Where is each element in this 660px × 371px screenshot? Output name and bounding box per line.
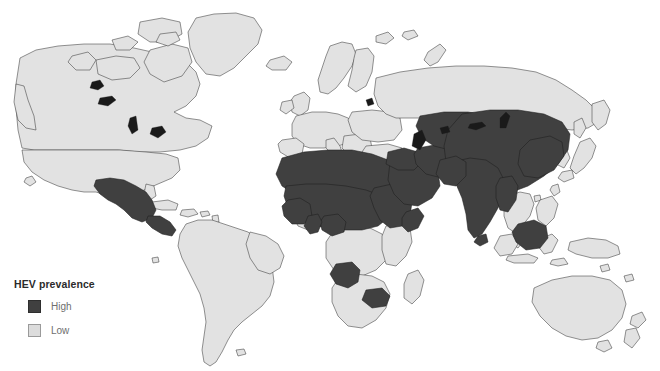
island-puerto-rico	[200, 211, 210, 217]
island-falklands	[236, 349, 246, 356]
island-svalbard	[376, 32, 394, 44]
country-new-zealand-north	[630, 312, 646, 328]
country-japan	[570, 138, 596, 174]
country-cuba	[152, 200, 178, 210]
island-timor	[550, 258, 568, 266]
island-madagascar	[404, 270, 424, 304]
country-iceland	[266, 56, 292, 70]
region-kamchatka	[592, 100, 610, 130]
country-australia	[532, 276, 626, 340]
map-legend: HEV prevalence High Low	[14, 278, 164, 345]
island-pacific-a	[600, 264, 610, 272]
legend-title: HEV prevalence	[14, 278, 164, 290]
legend-label-low: Low	[51, 324, 69, 337]
island-hispaniola	[180, 209, 198, 217]
island-java	[506, 254, 538, 263]
legend-item-high[interactable]: High	[28, 297, 164, 315]
country-new-zealand-south	[624, 328, 640, 348]
island-new-guinea	[568, 238, 620, 258]
legend-item-low[interactable]: Low	[28, 321, 164, 339]
island-arctic-russia	[402, 30, 418, 40]
legend-label-high: High	[51, 300, 72, 313]
country-greenland	[188, 13, 262, 76]
hev-prevalence-map-figure: HEV prevalence High Low	[0, 0, 660, 371]
legend-swatch-low-icon	[28, 324, 41, 337]
legend-swatch-high-icon	[28, 300, 41, 313]
marker-baltic	[366, 98, 374, 106]
region-central-america	[146, 216, 176, 236]
island-tasmania	[596, 340, 612, 352]
region-japan-south	[558, 170, 574, 182]
island-novaya-zemlya	[424, 44, 446, 66]
island-hawaii	[24, 176, 36, 186]
island-taiwan	[550, 184, 560, 196]
island-galapagos	[152, 257, 159, 263]
island-pacific-b	[624, 274, 634, 282]
